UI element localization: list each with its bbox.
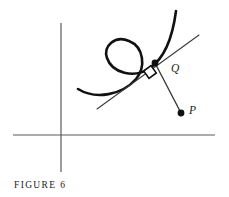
looped-curve	[78, 11, 176, 95]
figure-container: Q P FIGURE 6	[0, 0, 229, 197]
figure-diagram	[0, 0, 229, 197]
point-q-marker	[152, 60, 159, 67]
label-q: Q	[171, 63, 179, 75]
label-p: P	[189, 105, 196, 117]
figure-caption: FIGURE 6	[14, 180, 66, 190]
point-p-marker	[178, 110, 185, 117]
